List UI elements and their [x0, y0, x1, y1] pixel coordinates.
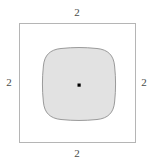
geometry-figure	[0, 0, 154, 166]
dimension-label-top: 2	[0, 7, 154, 18]
dimension-label-right: 2	[137, 77, 151, 88]
figure-container: 2 2 2 2	[0, 0, 154, 166]
dimension-label-left: 2	[2, 77, 16, 88]
dimension-label-bottom: 2	[0, 148, 154, 159]
center-dot	[78, 84, 81, 87]
